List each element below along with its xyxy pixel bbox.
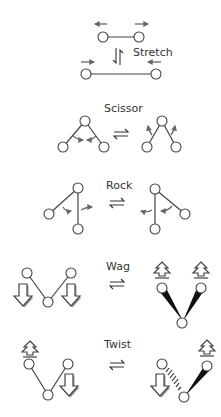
outward-arrow-icon <box>171 126 175 135</box>
atom <box>73 224 83 234</box>
wedge-bond <box>185 368 209 396</box>
equilibrium-arrows-icon <box>110 198 124 208</box>
up-arrow-icon <box>193 262 209 278</box>
twist-label: Twist <box>103 338 132 351</box>
atom <box>134 32 144 42</box>
atom <box>98 32 108 42</box>
inward-arrow-icon <box>73 136 83 140</box>
wag-label: Wag <box>106 260 130 273</box>
down-arrow-icon <box>151 374 171 398</box>
outward-arrow-icon <box>148 126 152 135</box>
atom <box>180 209 190 219</box>
rotate-arrow-icon <box>63 207 71 211</box>
down-arrow-icon <box>60 374 80 398</box>
rotate-arrow-icon <box>161 206 172 211</box>
atom <box>151 69 161 79</box>
atom <box>150 184 160 194</box>
inward-arrow-icon <box>87 136 96 140</box>
bond <box>155 189 185 214</box>
atom <box>80 116 90 126</box>
equilibrium-arrows-icon <box>110 360 124 370</box>
equilibrium-arrows-icon <box>110 279 124 289</box>
atom <box>150 224 160 234</box>
equilibrium-arrows-icon <box>113 48 123 65</box>
vibration-modes-diagram: Stretch Scissor Rock <box>0 0 221 417</box>
rock-mode: Rock <box>44 179 190 234</box>
atom <box>157 116 167 126</box>
atom <box>157 283 167 293</box>
atom <box>171 142 181 152</box>
equilibrium-arrows-icon <box>114 129 128 139</box>
wag-mode: Wag <box>14 260 209 328</box>
atom <box>81 69 91 79</box>
rotate-arrow-icon <box>141 210 152 212</box>
rock-label: Rock <box>106 179 133 192</box>
stretch-label: Stretch <box>133 46 173 59</box>
scissor-label: Scissor <box>104 102 143 115</box>
atom <box>142 142 152 152</box>
atom <box>58 142 68 152</box>
atom <box>24 359 34 369</box>
up-arrow-icon <box>199 340 215 356</box>
atom <box>22 268 32 278</box>
atom <box>99 142 109 152</box>
atom <box>63 359 73 369</box>
atom <box>202 361 212 371</box>
down-arrow-icon <box>14 284 34 308</box>
atom <box>179 392 189 402</box>
twist-mode: Twist <box>22 338 215 402</box>
rotate-arrow-icon <box>81 207 92 210</box>
atom <box>43 390 53 400</box>
atom <box>177 318 187 328</box>
up-arrow-icon <box>22 341 38 357</box>
atom <box>157 359 167 369</box>
scissor-mode: Scissor <box>58 102 181 152</box>
down-arrow-icon <box>62 284 82 308</box>
up-arrow-icon <box>154 262 170 278</box>
stretch-mode: Stretch <box>81 24 173 79</box>
atom <box>196 283 206 293</box>
atom <box>43 297 53 307</box>
atom <box>44 209 54 219</box>
atom <box>73 183 83 193</box>
atom <box>66 268 76 278</box>
bond <box>49 188 78 214</box>
